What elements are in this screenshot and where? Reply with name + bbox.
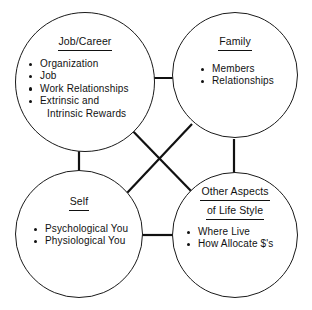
- node-other-aspects-bullet-list: Where Live How Allocate $'s: [185, 226, 285, 251]
- node-self-content: Self Psychological You Physiological You: [16, 195, 142, 248]
- bullet-dot-icon: [187, 231, 190, 234]
- list-item-label-continued: Intrinsic Rewards: [40, 108, 141, 120]
- bullet-dot-icon: [187, 243, 190, 246]
- list-item-label: How Allocate $'s: [198, 238, 273, 249]
- list-item-label: Psychological You: [45, 223, 128, 234]
- bullet-dot-icon: [201, 80, 204, 83]
- bullet-dot-icon: [29, 63, 32, 66]
- list-item: Extrinsic and Intrinsic Rewards: [29, 95, 141, 120]
- node-other-aspects-title: Other Aspects: [185, 185, 285, 201]
- node-self-bullet-list: Psychological You Physiological You: [32, 223, 126, 248]
- list-item: Job: [29, 70, 141, 82]
- bullet-dot-icon: [34, 240, 37, 243]
- list-item-label: Where Live: [198, 226, 250, 237]
- list-item: Where Live: [187, 226, 285, 238]
- node-other-aspects-title-text: Other Aspects: [200, 185, 269, 201]
- node-self-title-text: Self: [69, 195, 90, 211]
- node-job-career-bullet-list: Organization Job Work Relationships Extr…: [29, 58, 141, 120]
- node-family-content: Family Members Relationships: [173, 35, 297, 88]
- list-item: Members: [201, 63, 275, 75]
- list-item: Physiological You: [34, 235, 126, 247]
- node-other-aspects-title-line2-text: of Life Style: [206, 204, 264, 220]
- node-family[interactable]: Family Members Relationships: [172, 12, 298, 138]
- list-item-label: Work Relationships: [40, 83, 129, 94]
- bullet-dot-icon: [201, 68, 204, 71]
- node-job-career[interactable]: Job/Career Organization Job Work Relatio…: [15, 12, 155, 152]
- list-item: Work Relationships: [29, 83, 141, 95]
- node-job-career-title-text: Job/Career: [58, 35, 113, 51]
- bullet-dot-icon: [29, 75, 32, 78]
- list-item: Psychological You: [34, 223, 126, 235]
- list-item-label: Relationships: [212, 75, 274, 86]
- node-family-title: Family: [195, 35, 275, 51]
- bullet-dot-icon: [34, 228, 37, 231]
- node-family-title-text: Family: [218, 35, 252, 51]
- list-item: Relationships: [201, 75, 275, 87]
- node-self-title: Self: [32, 195, 126, 211]
- node-other-aspects-of-life-style[interactable]: Other Aspects of Life Style Where Live H…: [172, 172, 298, 298]
- node-family-bullet-list: Members Relationships: [195, 63, 275, 88]
- list-item: Organization: [29, 58, 141, 70]
- life-style-diagram: Job/Career Organization Job Work Relatio…: [0, 0, 312, 310]
- list-item-label: Organization: [40, 58, 99, 69]
- node-job-career-title: Job/Career: [29, 35, 141, 51]
- list-item: How Allocate $'s: [187, 238, 285, 250]
- bullet-dot-icon: [29, 87, 32, 90]
- node-other-aspects-content: Other Aspects of Life Style Where Live H…: [173, 185, 297, 251]
- list-item-label: Extrinsic and: [40, 95, 99, 106]
- list-item-label: Physiological You: [45, 235, 125, 246]
- bullet-dot-icon: [29, 100, 32, 103]
- list-item-label: Job: [40, 70, 57, 81]
- node-self[interactable]: Self Psychological You Physiological You: [15, 170, 143, 298]
- node-other-aspects-title-line2: of Life Style: [185, 204, 285, 220]
- node-job-career-content: Job/Career Organization Job Work Relatio…: [16, 35, 154, 120]
- list-item-label: Members: [212, 63, 255, 74]
